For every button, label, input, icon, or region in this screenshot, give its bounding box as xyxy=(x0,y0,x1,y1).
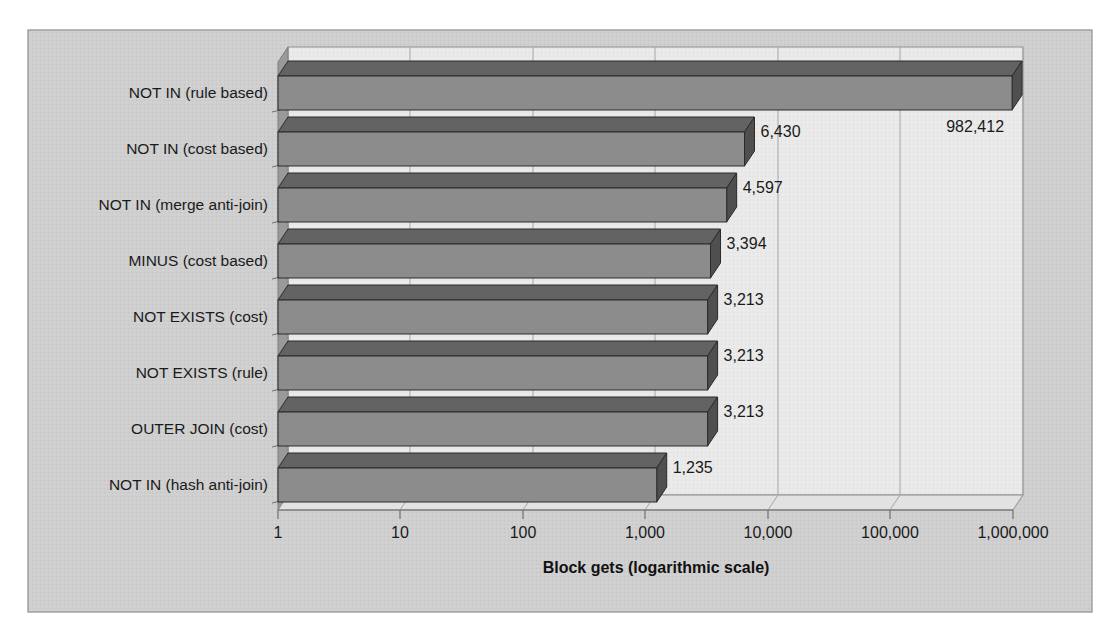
tick-label-2: 100 xyxy=(510,524,537,541)
value-label-0: 982,412 xyxy=(946,118,1004,135)
bar-front-face xyxy=(278,76,1012,110)
bar-chart-svg: NOT IN (rule based)NOT IN (cost based)NO… xyxy=(0,0,1116,638)
value-label-1: 6,430 xyxy=(761,123,801,140)
tick-label-4: 10,000 xyxy=(744,524,793,541)
bar-top-face xyxy=(278,61,1022,76)
bar-1 xyxy=(278,117,755,166)
bar-0 xyxy=(278,61,1022,110)
x-axis-title: Block gets (logarithmic scale) xyxy=(543,559,770,576)
value-label-4: 3,213 xyxy=(724,291,764,308)
bar-front-face xyxy=(278,300,708,334)
bar-top-face xyxy=(278,285,718,300)
bar-4 xyxy=(278,285,718,334)
category-label-2: NOT IN (merge anti-join) xyxy=(99,196,268,213)
value-label-5: 3,213 xyxy=(724,347,764,364)
tick-label-5: 100,000 xyxy=(861,524,919,541)
bar-front-face xyxy=(278,356,708,390)
tick-label-0: 1 xyxy=(274,524,283,541)
category-label-6: OUTER JOIN (cost) xyxy=(131,420,268,437)
bar-7 xyxy=(278,453,667,502)
bar-front-face xyxy=(278,188,727,222)
bar-top-face xyxy=(278,229,721,244)
value-label-3: 3,394 xyxy=(727,235,767,252)
category-label-1: NOT IN (cost based) xyxy=(126,140,268,157)
bar-front-face xyxy=(278,468,657,502)
chart-figure: NOT IN (rule based)NOT IN (cost based)NO… xyxy=(0,0,1116,638)
value-label-6: 3,213 xyxy=(724,403,764,420)
bar-front-face xyxy=(278,132,745,166)
bar-3 xyxy=(278,229,721,278)
tick-label-1: 10 xyxy=(391,524,409,541)
bar-front-face xyxy=(278,244,711,278)
bar-top-face xyxy=(278,397,718,412)
bar-top-face xyxy=(278,117,755,132)
category-label-3: MINUS (cost based) xyxy=(128,252,268,269)
bar-front-face xyxy=(278,412,708,446)
tick-label-6: 1,000,000 xyxy=(977,524,1048,541)
bar-2 xyxy=(278,173,737,222)
category-label-0: NOT IN (rule based) xyxy=(129,84,268,101)
value-label-7: 1,235 xyxy=(673,459,713,476)
bar-top-face xyxy=(278,173,737,188)
tick-label-3: 1,000 xyxy=(625,524,665,541)
category-label-5: NOT EXISTS (rule) xyxy=(136,364,268,381)
category-label-4: NOT EXISTS (cost) xyxy=(133,308,268,325)
bar-top-face xyxy=(278,453,667,468)
bar-5 xyxy=(278,341,718,390)
category-label-7: NOT IN (hash anti-join) xyxy=(109,476,268,493)
value-label-2: 4,597 xyxy=(743,179,783,196)
bar-6 xyxy=(278,397,718,446)
bar-top-face xyxy=(278,341,718,356)
